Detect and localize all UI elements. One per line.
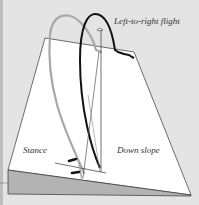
target-flag-icon — [97, 28, 103, 31]
flight-label: Left-to-right flight — [114, 16, 180, 26]
down-slope-label: Down slope — [117, 145, 160, 155]
stance-label: Stance — [23, 145, 47, 155]
diagram-canvas: Left-to-right flight Stance Down slope — [0, 0, 199, 205]
swing-diagram — [0, 0, 199, 205]
right-foot-marker — [72, 172, 79, 173]
